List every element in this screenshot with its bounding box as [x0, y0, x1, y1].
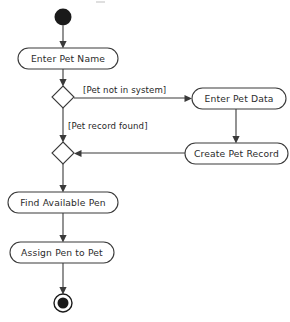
- edge-enter-pet-data-to-create-pet-record: [232, 109, 239, 144]
- edge-find-available-pen-to-assign-pen-to-pet: [59, 213, 66, 243]
- final-node[interactable]: [54, 294, 72, 312]
- merge-node[interactable]: [52, 142, 74, 164]
- edge-merge-to-find-available-pen: [59, 164, 66, 193]
- action-node-enter-pet-name[interactable]: Enter Pet Name: [18, 48, 118, 69]
- edge-assign-pen-to-pet-to-end: [59, 263, 66, 295]
- action-label-create-pet-record: Create Pet Record: [194, 148, 279, 159]
- edge-start-to-enter-pet-name: [59, 26, 66, 49]
- cropped-text-artifact: [96, 1, 105, 3]
- edge-create-pet-record-to-merge: [74, 150, 185, 157]
- action-node-find-available-pen[interactable]: Find Available Pen: [8, 192, 118, 213]
- initial-node[interactable]: [55, 9, 72, 26]
- action-node-assign-pen-to-pet[interactable]: Assign Pen to Pet: [10, 242, 114, 263]
- action-label-assign-pen-to-pet: Assign Pen to Pet: [21, 247, 103, 258]
- guard-label-pet-not-in-system: [Pet not in system]: [83, 85, 166, 95]
- action-node-create-pet-record[interactable]: Create Pet Record: [185, 143, 288, 164]
- decision-node-pet-known[interactable]: [52, 86, 74, 108]
- edge-decision-to-merge: [59, 108, 66, 143]
- activity-diagram-canvas: Enter Pet Name [Pet not in system] [Pet …: [0, 0, 290, 322]
- uml-activity-diagram: Enter Pet Name [Pet not in system] [Pet …: [0, 0, 290, 322]
- action-label-enter-pet-name: Enter Pet Name: [31, 53, 105, 64]
- edge-enter-pet-name-to-decision: [59, 69, 66, 87]
- guard-label-pet-record-found: [Pet record found]: [68, 121, 148, 131]
- edge-decision-to-enter-pet-data: [74, 95, 192, 102]
- action-label-enter-pet-data: Enter Pet Data: [204, 93, 273, 104]
- action-node-enter-pet-data[interactable]: Enter Pet Data: [192, 88, 286, 109]
- action-label-find-available-pen: Find Available Pen: [20, 197, 106, 208]
